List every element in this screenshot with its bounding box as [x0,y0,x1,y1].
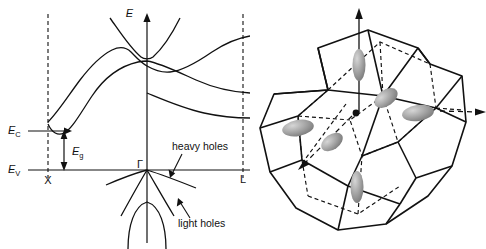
band-gap-label: Eg [72,145,84,160]
light-holes-label: light holes [178,217,225,229]
light-holes-leader-line [180,202,190,218]
heavy-holes-label: heavy holes [172,140,228,152]
band-curve-gamma-valley [110,18,180,59]
heavy-holes-arrowhead [169,170,176,178]
band-structure-panel: E EC EV Eg X Γ L [0,0,250,249]
symmetry-point-gamma-label: Γ [137,158,143,170]
ellipsoid-front-upper [371,84,401,112]
bz-center-gamma-point [353,110,360,117]
energy-axis-label: E [126,7,134,19]
ev-subscript: V [15,169,20,178]
bz-ellipsoids-group [281,49,435,203]
bz-axis-horizontal-arrowhead [475,108,486,115]
ellipsoid-top [353,49,366,81]
brillouin-zone-panel [240,0,486,249]
figure-root: E EC EV Eg X Γ L [0,0,486,249]
conduction-band-edge-label: EC [8,124,21,139]
valence-band-edge-label: EV [8,163,20,178]
eg-subscript: g [79,151,83,160]
bz-axis-vertical-arrowhead [355,8,363,19]
band-structure-svg: E EC EV Eg X Γ L [0,0,250,249]
ellipsoid-bottom [351,171,364,203]
band-curve-heavy-hole-left [106,170,147,185]
band-curves-group [48,18,250,249]
band-curve-descending-to-l [147,93,250,118]
band-curve-conduction-lower [48,61,250,134]
symmetry-point-x-label: X [44,174,52,186]
ec-subscript: C [15,130,21,139]
band-curve-conduction-upper [48,36,250,122]
ellipsoid-front-lower [318,129,346,155]
brillouin-zone-svg [240,0,486,249]
energy-axis-arrowhead [143,13,150,22]
heavy-holes-leader-line [172,154,182,174]
